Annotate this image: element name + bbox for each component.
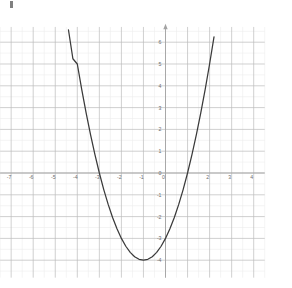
y-tick-label: 3 (159, 105, 162, 111)
x-tick-label: 2 (206, 174, 209, 180)
x-tick-label: -7 (7, 174, 12, 180)
y-tick-label: 2 (159, 126, 162, 132)
x-tick-label: 0 (162, 174, 165, 180)
x-tick-label: -3 (95, 174, 100, 180)
x-tick-label: -5 (51, 174, 56, 180)
x-tick-label: 4 (250, 174, 253, 180)
y-tick-label: 4 (159, 83, 162, 89)
plot-background (0, 0, 292, 288)
coordinate-plane: -7-6-5-4-3-2-10234 -4-3-2-10123456 (0, 0, 292, 288)
x-tick-label: -1 (139, 174, 144, 180)
graph-figure: -7-6-5-4-3-2-10234 -4-3-2-10123456 (0, 0, 292, 288)
x-tick-label: -2 (117, 174, 122, 180)
y-tick-label: 5 (159, 61, 162, 67)
y-tick-label: 0 (159, 170, 162, 176)
y-tick-label: -3 (157, 235, 162, 241)
x-tick-label: -4 (73, 174, 78, 180)
y-tick-label: 1 (159, 148, 162, 154)
y-tick-label: -2 (157, 214, 162, 220)
y-tick-label: -4 (157, 257, 162, 263)
corner-artifact-mark (10, 1, 13, 8)
x-tick-label: 3 (228, 174, 231, 180)
y-tick-label: 6 (159, 39, 162, 45)
x-tick-label: -6 (29, 174, 34, 180)
y-tick-label: -1 (157, 192, 162, 198)
